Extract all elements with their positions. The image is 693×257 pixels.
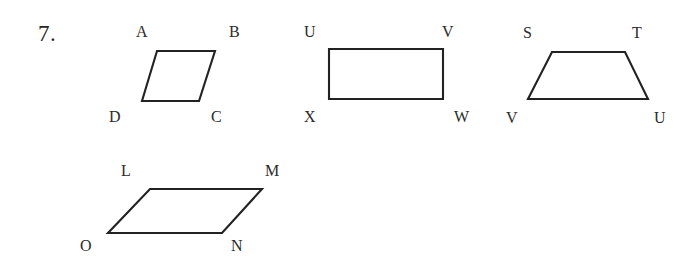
vertex-label-stuv-u: U [654, 110, 666, 126]
vertex-label-abcd-b: B [229, 24, 240, 40]
vertex-label-stuv-t: T [632, 25, 642, 41]
vertex-label-lmno-n: N [231, 238, 243, 254]
shape-stuv [528, 52, 648, 99]
vertex-label-abcd-a: A [136, 24, 148, 40]
figures-canvas [0, 0, 693, 257]
vertex-label-abcd-c: C [211, 109, 222, 125]
vertex-label-uvwx-w: W [454, 109, 469, 125]
worksheet-page: 7. ABCDUVWXSTUVLMNO [0, 0, 693, 257]
vertex-label-lmno-o: O [80, 238, 92, 254]
shape-lmno [108, 189, 262, 233]
vertex-label-uvwx-x: X [304, 109, 316, 125]
vertex-label-stuv-v: V [506, 110, 518, 126]
vertex-label-abcd-d: D [109, 109, 121, 125]
vertex-label-uvwx-v: V [442, 24, 454, 40]
shape-abcd [142, 51, 215, 101]
vertex-label-lmno-l: L [121, 163, 131, 179]
vertex-label-stuv-s: S [523, 25, 532, 41]
vertex-label-uvwx-u: U [304, 24, 316, 40]
question-number: 7. [38, 22, 56, 45]
shape-uvwx [329, 49, 443, 99]
vertex-label-lmno-m: M [265, 163, 279, 179]
